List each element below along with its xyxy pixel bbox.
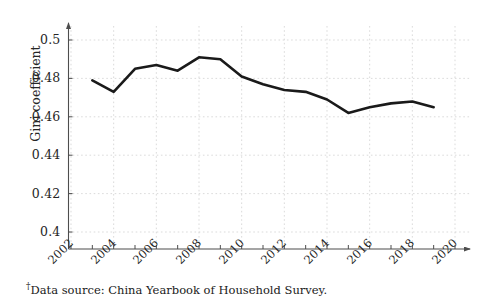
data-series-line <box>92 57 433 113</box>
y-axis-title: Gini coefficient <box>28 19 43 169</box>
gridlines <box>69 26 471 249</box>
axis-ticks <box>69 40 456 249</box>
y-axis-tick-label: 0.42 <box>0 186 61 201</box>
series-line-gini <box>92 57 433 113</box>
footnote-text: Data source: China Yearbook of Household… <box>31 283 328 297</box>
gini-coefficient-chart-figure: 0.40.420.440.460.480.5 20022004200620082… <box>0 0 489 307</box>
y-axis-tick-label: 0.4 <box>0 224 61 239</box>
chart-plot-area <box>0 0 489 307</box>
axis-lines <box>69 23 471 249</box>
footnote: †Data source: China Yearbook of Househol… <box>26 281 327 297</box>
